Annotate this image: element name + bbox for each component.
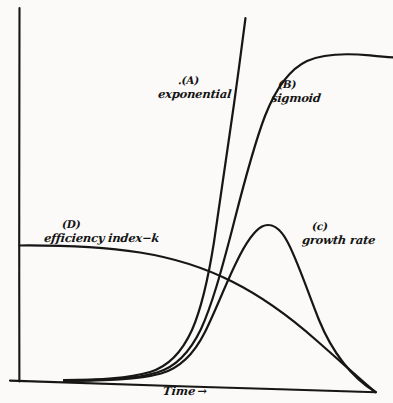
sketch-figure: .(A) exponential (B) sigmoid (D) efficie… bbox=[0, 0, 393, 403]
curve-growth-rate bbox=[64, 225, 376, 392]
label-exponential: .(A) exponential bbox=[158, 76, 231, 101]
label-sigmoid-key: (B) bbox=[271, 80, 321, 92]
x-axis-label: Time→ bbox=[162, 384, 208, 398]
chart-canvas bbox=[0, 0, 393, 403]
x-axis-label-text: Time bbox=[162, 384, 196, 398]
label-efficiency-name: efficiency index−k bbox=[43, 232, 160, 245]
curve-efficiency-index bbox=[20, 245, 376, 392]
label-exponential-key: .(A) bbox=[158, 76, 231, 88]
label-growth-rate-name: growth rate bbox=[301, 234, 376, 247]
label-growth-rate-key: (c) bbox=[302, 222, 375, 234]
label-sigmoid-name: sigmoid bbox=[270, 92, 321, 105]
label-exponential-name: exponential bbox=[157, 88, 232, 101]
arrow-right-icon: → bbox=[195, 384, 208, 398]
curve-sigmoid bbox=[64, 54, 393, 380]
label-growth-rate: (c) growth rate bbox=[302, 222, 375, 247]
label-sigmoid: (B) sigmoid bbox=[271, 80, 321, 105]
label-efficiency-index: (D) efficiency index−k bbox=[44, 220, 159, 245]
curve-exponential bbox=[64, 18, 246, 380]
label-efficiency-key: (D) bbox=[44, 220, 159, 232]
